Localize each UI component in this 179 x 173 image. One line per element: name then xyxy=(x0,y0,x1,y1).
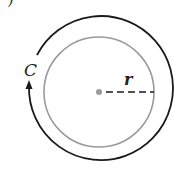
circle-diagram-svg xyxy=(0,0,179,173)
part-label: ) xyxy=(8,0,13,8)
circle-diagram: ) C r xyxy=(0,0,179,173)
arrowhead-icon xyxy=(26,80,33,89)
circumference-label: C xyxy=(24,60,37,80)
center-dot xyxy=(96,89,102,95)
radius-label: r xyxy=(124,70,132,89)
